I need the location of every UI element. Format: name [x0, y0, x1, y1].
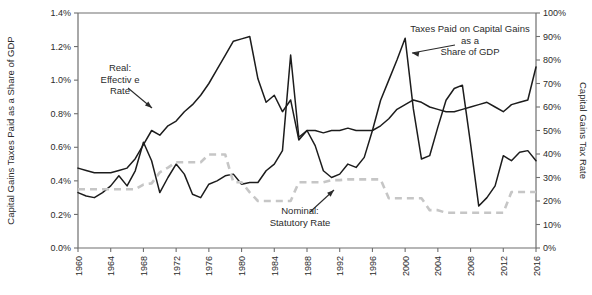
y2-axis-tick-label: 60% [543, 102, 561, 112]
y2-axis-tick-label: 20% [543, 196, 561, 206]
x-axis-tick-label: 2016 [532, 256, 542, 276]
annotation-real-effective-rate-line: Effectiv e [101, 74, 140, 85]
y-axis-tick-label: 0.2% [50, 210, 71, 220]
annotation-real-effective-rate-line: Rate [110, 85, 130, 96]
y2-axis-tick-label: 100% [543, 8, 566, 18]
y-axis-tick-label: 0.8% [50, 109, 71, 119]
series-line-1 [78, 38, 536, 206]
y2-axis-tick-label: 70% [543, 79, 561, 89]
x-axis-tick-label: 1960 [74, 256, 84, 276]
y-axis-tick-label: 0.4% [50, 176, 71, 186]
y2-axis-tick-label: 80% [543, 55, 561, 65]
x-axis-tick-label: 1968 [139, 256, 149, 276]
y-axis-tick-label: 1.2% [50, 42, 71, 52]
x-axis-tick-label: 2004 [433, 256, 443, 276]
y-axis-title: Capital Gains Taxes Paid as a Share of G… [5, 36, 16, 224]
series-line-2 [78, 154, 536, 212]
y2-axis-title: Capital Gains Tax Rate [578, 82, 589, 179]
x-axis-tick-label: 1996 [368, 256, 378, 276]
annotation-taxes-paid-share-gdp-line: as a [461, 35, 480, 46]
y2-axis-tick-label: 50% [543, 126, 561, 136]
y2-axis-tick-label: 10% [543, 220, 561, 230]
x-axis-tick-label: 1992 [335, 256, 345, 276]
y2-axis-tick-label: 40% [543, 149, 561, 159]
x-axis-tick-label: 2008 [466, 256, 476, 276]
x-axis-tick-label: 1980 [237, 256, 247, 276]
x-axis-tick-label: 1976 [204, 256, 214, 276]
annotation-nominal-statutory-rate-line: Nominal: [281, 205, 319, 216]
x-axis-tick-label: 1972 [172, 256, 182, 276]
y-axis-tick-label: 0.6% [50, 142, 71, 152]
y2-axis-tick-label: 90% [543, 32, 561, 42]
y-axis-tick-label: 1.4% [50, 8, 71, 18]
annotation-real-effective-rate-line: Real: [109, 62, 131, 73]
x-axis-tick-label: 1984 [270, 256, 280, 276]
x-axis-tick-label: 2000 [401, 256, 411, 276]
x-axis-tick-label: 2012 [499, 256, 509, 276]
y2-axis-tick-label: 30% [543, 173, 561, 183]
annotation-taxes-paid-share-gdp-line: Share of GDP [440, 46, 499, 57]
capital-gains-chart: 0.0%0.2%0.4%0.6%0.8%1.0%1.2%1.4%0%10%20%… [0, 0, 592, 295]
y2-axis-tick-label: 0% [543, 243, 556, 253]
x-axis-tick-label: 1964 [106, 256, 116, 276]
annotation-nominal-statutory-rate-line: Statutory Rate [270, 217, 331, 228]
x-axis-tick-label: 1988 [303, 256, 313, 276]
y-axis-tick-label: 0.0% [50, 243, 71, 253]
y-axis-tick-label: 1.0% [50, 75, 71, 85]
chart-canvas: 0.0%0.2%0.4%0.6%0.8%1.0%1.2%1.4%0%10%20%… [0, 0, 592, 295]
annotation-taxes-paid-share-gdp-line: Taxes Paid on Capital Gains [410, 23, 530, 34]
